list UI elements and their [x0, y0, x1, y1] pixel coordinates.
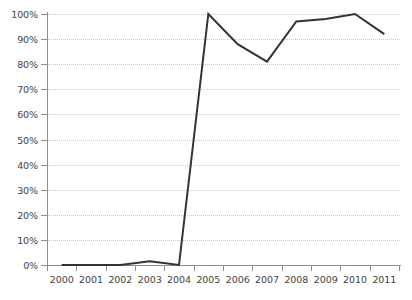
x-axis-tick [399, 265, 400, 271]
x-axis-tick [252, 265, 253, 271]
y-axis-tick [41, 240, 48, 241]
gridline [48, 39, 400, 40]
x-axis-tick [164, 265, 165, 271]
y-axis-tick [41, 215, 48, 216]
y-axis-label: 10% [0, 235, 38, 246]
y-axis-label: 70% [0, 84, 38, 95]
gridline [48, 215, 400, 216]
y-axis-label: 80% [0, 59, 38, 70]
y-axis-label: 20% [0, 210, 38, 221]
y-axis-label: 100% [0, 9, 38, 20]
x-axis-tick [106, 265, 107, 271]
gridline [48, 165, 400, 166]
y-axis-label: 40% [0, 160, 38, 171]
line-chart: 100% 90% 80% 70% 60% 50% 40% 30% 20% 10%… [0, 0, 412, 300]
gridline [48, 89, 400, 90]
y-axis-tick [41, 190, 48, 191]
y-axis-tick [41, 114, 48, 115]
gridline [48, 140, 400, 141]
gridline [48, 190, 400, 191]
x-axis-tick [135, 265, 136, 271]
x-axis-tick [223, 265, 224, 271]
gridline [48, 14, 400, 15]
x-axis-tick [282, 265, 283, 271]
x-axis-tick [311, 265, 312, 271]
x-axis-tick [76, 265, 77, 271]
x-axis-line [47, 265, 401, 266]
x-axis-label: 2011 [364, 274, 404, 285]
y-axis-label: 60% [0, 109, 38, 120]
y-axis-tick [41, 14, 48, 15]
y-axis-label: 50% [0, 135, 38, 146]
y-axis-tick [41, 39, 48, 40]
plot-area [48, 14, 400, 265]
y-axis-tick [41, 89, 48, 90]
x-axis-tick [370, 265, 371, 271]
gridline [48, 240, 400, 241]
y-axis-label: 0% [0, 260, 38, 271]
y-axis-tick [41, 64, 48, 65]
x-axis-tick [47, 265, 48, 271]
x-axis-tick [340, 265, 341, 271]
gridline [48, 64, 400, 65]
y-axis-tick [41, 140, 48, 141]
y-axis-label: 90% [0, 34, 38, 45]
x-axis-tick [194, 265, 195, 271]
y-axis-label: 30% [0, 185, 38, 196]
y-axis-tick [41, 165, 48, 166]
gridline [48, 114, 400, 115]
